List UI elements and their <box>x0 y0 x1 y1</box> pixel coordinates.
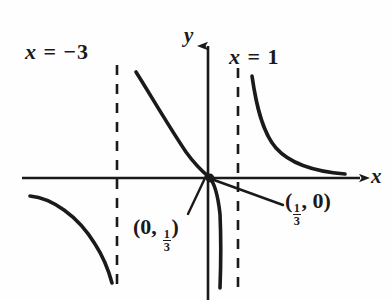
left-asymptote-label-relation: = <box>44 39 58 64</box>
left-asymptote-label-variable: x <box>25 39 37 64</box>
y-axis-label: y <box>184 25 193 46</box>
y-intercept-label-open: (0, <box>133 214 162 239</box>
x-intercept-fraction-denominator: 3 <box>293 214 301 227</box>
origin-intersection-blob <box>206 174 215 183</box>
y-intercept-label-close: ) <box>171 214 178 239</box>
y-intercept-label: (0, 13) <box>133 216 179 253</box>
rational-function-figure: x = −3 x = 1 y x (0, 13) (13, 0) <box>0 0 391 300</box>
left-asymptote-label-value: −3 <box>64 39 90 64</box>
y-intercept-leader-line <box>188 176 206 214</box>
axis-lines <box>22 46 360 300</box>
y-intercept-fraction-numerator: 1 <box>163 228 171 240</box>
x-intercept-leader-line <box>214 180 283 205</box>
function-curve <box>30 72 345 288</box>
x-axis-label: x <box>371 166 382 187</box>
right-asymptote-label-variable: x <box>229 44 241 69</box>
x-intercept-fraction: 13 <box>293 202 301 227</box>
right-asymptote-label: x = 1 <box>229 46 280 68</box>
y-intercept-fraction: 13 <box>163 228 171 253</box>
y-intercept-fraction-denominator: 3 <box>163 240 171 253</box>
curve-left-branch <box>30 196 112 283</box>
left-asymptote-label: x = −3 <box>25 41 89 63</box>
curve-right-branch <box>252 76 345 174</box>
right-asymptote-label-relation: = <box>248 44 262 69</box>
x-intercept-label-open: ( <box>285 188 292 213</box>
leader-lines <box>188 176 283 214</box>
x-intercept-label-close: , 0) <box>301 188 330 213</box>
right-asymptote-label-value: 1 <box>268 44 280 69</box>
x-intercept-label: (13, 0) <box>285 190 331 227</box>
x-intercept-fraction-numerator: 1 <box>293 202 301 214</box>
